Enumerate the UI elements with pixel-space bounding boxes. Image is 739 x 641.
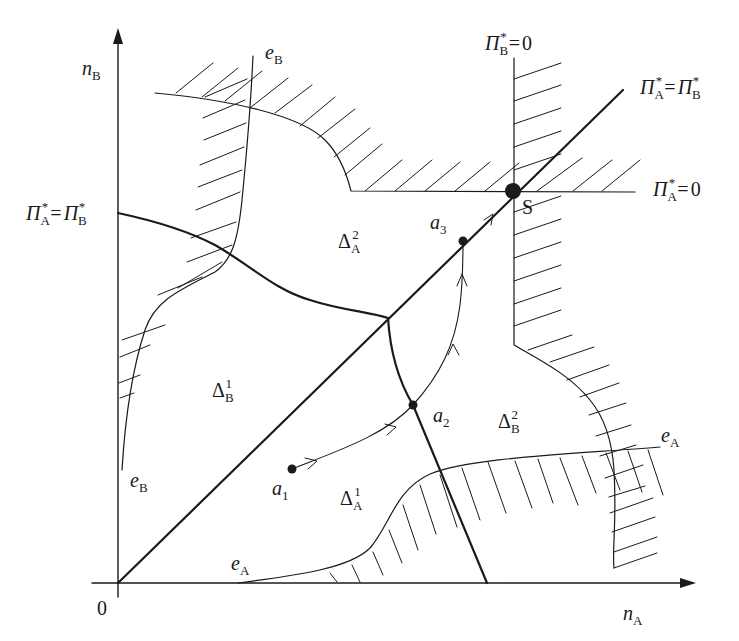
point-a2	[409, 401, 418, 410]
piB-zero-label: ΠB*=0	[485, 30, 532, 57]
point-S	[505, 183, 521, 199]
equal-profit-diagonal	[118, 90, 623, 583]
eB-top-label: eB	[265, 42, 283, 66]
arrow-icon	[448, 344, 459, 355]
point-S-label: S	[522, 197, 533, 217]
trajectory	[292, 214, 493, 469]
phase-diagram	[0, 0, 739, 641]
point-a1	[288, 465, 297, 474]
piA-zero-label: ΠA*=0	[653, 176, 701, 203]
equal-left-label: ΠA*=ΠB*	[26, 200, 85, 227]
origin-label: 0	[97, 598, 107, 618]
eB-curve	[119, 56, 253, 470]
eA-bottom-label: eA	[231, 553, 249, 577]
eB-bottom-label: eB	[130, 470, 148, 494]
y-axis-label: nB	[82, 58, 101, 82]
point-a1-label: a1	[272, 478, 289, 502]
region-delta-A-1: ΔA1	[340, 485, 361, 512]
eA-top-label: eA	[661, 425, 679, 449]
x-axis-label: nA	[623, 603, 642, 627]
y-axis-arrow-icon	[113, 28, 123, 44]
region-delta-A-2: ΔA2	[338, 228, 359, 255]
eA-curve	[238, 447, 663, 583]
region-delta-B-1: ΔB1	[212, 377, 232, 404]
piB-zero-curve	[514, 58, 657, 568]
point-a3-label: a3	[430, 212, 447, 236]
point-a2-label: a2	[433, 405, 450, 429]
x-axis-arrow-icon	[680, 578, 696, 588]
region-delta-B-2: ΔB2	[498, 408, 518, 435]
point-a3	[459, 237, 468, 246]
top-boundary-curve	[155, 63, 640, 192]
arrow-icon	[385, 424, 396, 435]
equal-diag-label: ΠA*=ΠB*	[640, 74, 699, 101]
